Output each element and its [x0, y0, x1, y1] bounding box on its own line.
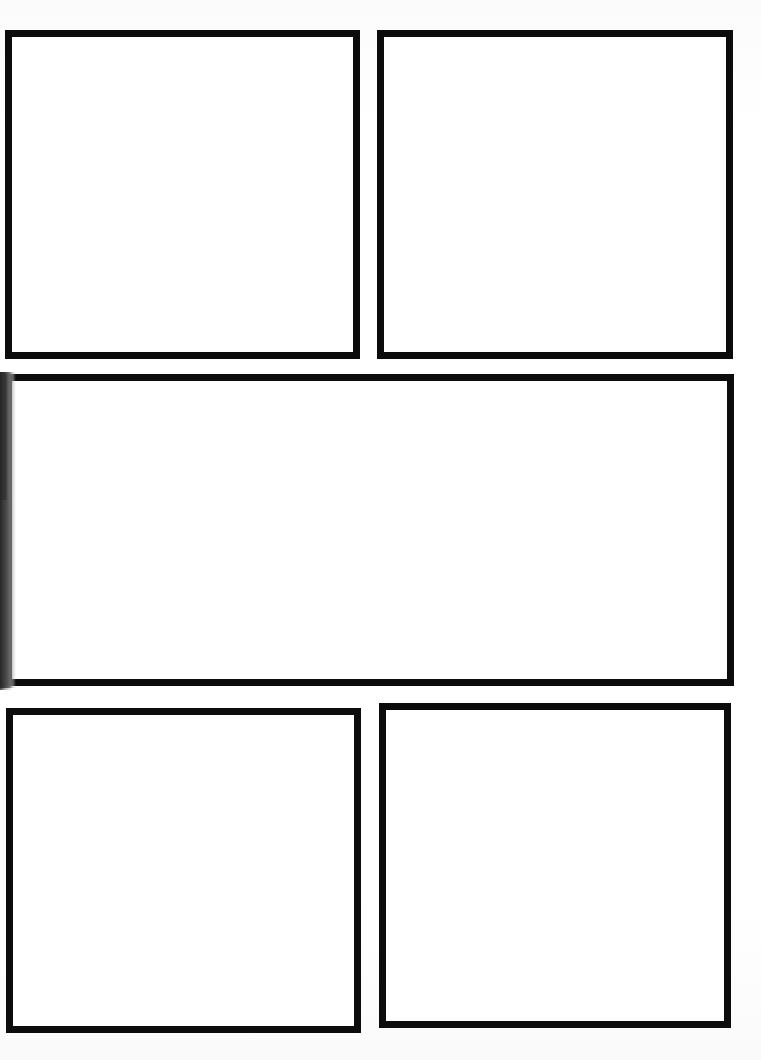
- comic-panel-top-right-content: [384, 37, 726, 352]
- comic-panel-middle-wide[interactable]: [5, 374, 734, 686]
- comic-panel-middle-wide-content: [12, 381, 727, 679]
- comic-page: [0, 0, 761, 1060]
- comic-panel-bottom-right-content: [386, 710, 724, 1021]
- comic-panel-bottom-left[interactable]: [6, 708, 361, 1033]
- comic-panel-top-left-content: [12, 37, 353, 352]
- comic-panel-bottom-right[interactable]: [379, 703, 731, 1028]
- comic-panel-bottom-left-content: [13, 715, 354, 1026]
- comic-panel-top-right[interactable]: [377, 30, 733, 359]
- comic-panel-top-left[interactable]: [5, 30, 360, 359]
